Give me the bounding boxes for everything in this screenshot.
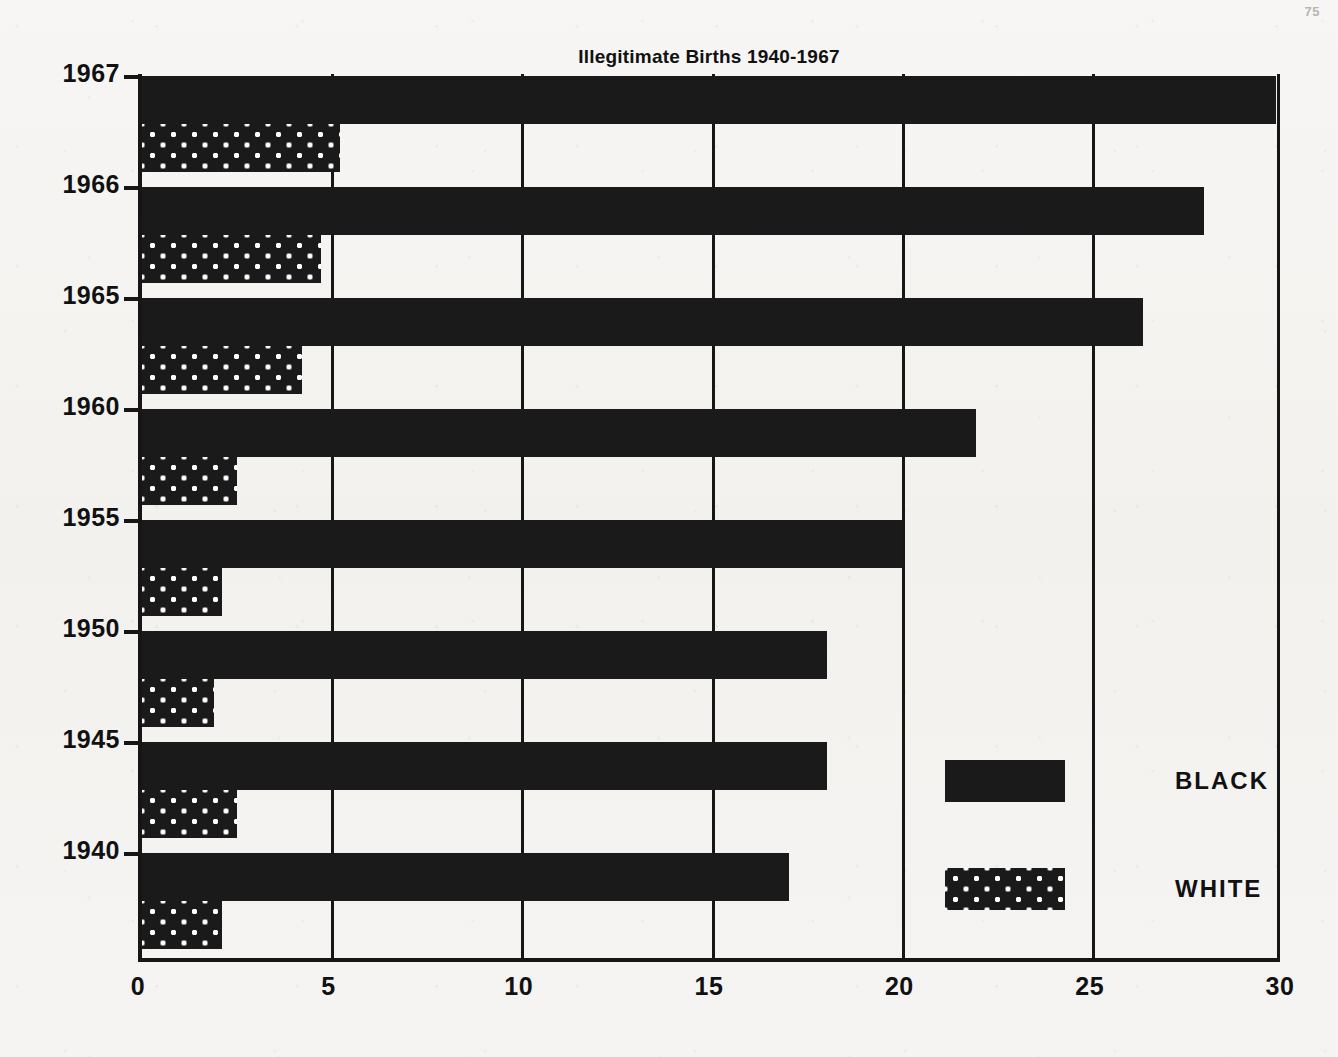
bar-chart: Illegitimate Births 1940-1967 BLACK WHIT… bbox=[0, 0, 1338, 1057]
y-axis-label-1950: 1950 bbox=[55, 614, 120, 643]
legend-swatch-white bbox=[945, 868, 1065, 910]
legend-label-black: BLACK bbox=[1175, 767, 1269, 795]
y-axis-tick bbox=[124, 297, 142, 301]
y-axis-label-1945: 1945 bbox=[55, 725, 120, 754]
plot-area bbox=[138, 74, 1280, 962]
bar-white-1945 bbox=[142, 790, 237, 838]
y-axis-tick bbox=[124, 852, 142, 856]
x-axis-tick-label: 25 bbox=[1075, 972, 1104, 1001]
bar-group-1967 bbox=[142, 74, 1284, 185]
chart-title: Illegitimate Births 1940-1967 bbox=[138, 46, 1280, 68]
y-axis-tick bbox=[124, 408, 142, 412]
bar-white-1967 bbox=[142, 124, 340, 172]
bar-black-1940 bbox=[142, 853, 789, 901]
bar-group-1960 bbox=[142, 407, 1284, 518]
y-axis-label-1940: 1940 bbox=[55, 836, 120, 865]
bar-white-1950 bbox=[142, 679, 214, 727]
bar-group-1965 bbox=[142, 296, 1284, 407]
bar-group-1955 bbox=[142, 518, 1284, 629]
x-axis-tick-label: 5 bbox=[321, 972, 335, 1001]
bar-white-1965 bbox=[142, 346, 302, 394]
bar-black-1950 bbox=[142, 631, 827, 679]
x-axis-tick-label: 15 bbox=[695, 972, 724, 1001]
bar-white-1955 bbox=[142, 568, 222, 616]
y-axis-tick bbox=[124, 741, 142, 745]
bar-group-1966 bbox=[142, 185, 1284, 296]
y-axis-label-1967: 1967 bbox=[55, 59, 120, 88]
bar-group-1950 bbox=[142, 629, 1284, 740]
bar-black-1965 bbox=[142, 298, 1143, 346]
y-axis-tick bbox=[124, 75, 142, 79]
y-axis-label-1960: 1960 bbox=[55, 392, 120, 421]
bar-black-1967 bbox=[142, 76, 1276, 124]
bar-white-1960 bbox=[142, 457, 237, 505]
x-axis-tick-label: 0 bbox=[131, 972, 145, 1001]
x-axis-tick-label: 10 bbox=[504, 972, 533, 1001]
y-axis-label-1955: 1955 bbox=[55, 503, 120, 532]
legend-swatch-black bbox=[945, 760, 1065, 802]
y-axis-tick bbox=[124, 519, 142, 523]
x-axis-tick-label: 30 bbox=[1266, 972, 1295, 1001]
x-axis-tick-label: 20 bbox=[885, 972, 914, 1001]
bar-black-1945 bbox=[142, 742, 827, 790]
y-axis-label-1966: 1966 bbox=[55, 170, 120, 199]
legend-item-black: BLACK bbox=[945, 760, 1269, 802]
y-axis-tick bbox=[124, 630, 142, 634]
bar-white-1966 bbox=[142, 235, 321, 283]
legend-item-white: WHITE bbox=[945, 868, 1262, 910]
bar-black-1960 bbox=[142, 409, 976, 457]
y-axis-tick bbox=[124, 186, 142, 190]
legend-label-white: WHITE bbox=[1175, 875, 1262, 903]
bar-black-1955 bbox=[142, 520, 903, 568]
bar-white-1940 bbox=[142, 901, 222, 949]
bar-black-1966 bbox=[142, 187, 1204, 235]
y-axis-label-1965: 1965 bbox=[55, 281, 120, 310]
